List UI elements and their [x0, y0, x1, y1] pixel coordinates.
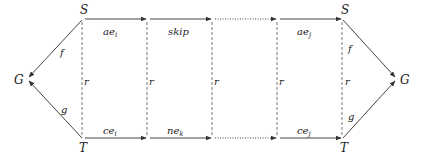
label-bottom-4: cej: [297, 125, 312, 138]
edge-right-g: [343, 81, 395, 138]
label-right-f: f: [347, 43, 354, 54]
label-top-1: aei: [103, 26, 117, 39]
node-right-s: S: [341, 3, 349, 17]
label-r-1: r: [84, 76, 90, 87]
label-top-2: skip: [168, 26, 189, 37]
node-left-s: S: [80, 3, 88, 17]
edge-left-f: [29, 20, 82, 77]
label-bottom-1: cei: [103, 125, 117, 138]
node-right-g: G: [400, 73, 410, 87]
node-left-g: G: [14, 73, 24, 87]
label-r-5: r: [345, 76, 351, 87]
label-left-f: f: [59, 47, 66, 58]
label-bottom-2: nek: [167, 125, 184, 138]
label-top-4: aej: [297, 26, 312, 39]
label-r-2: r: [149, 76, 155, 87]
edge-left-g: [29, 81, 82, 138]
label-r-4: r: [279, 76, 285, 87]
label-r-3: r: [214, 76, 220, 87]
node-left-t: T: [79, 141, 88, 155]
node-right-t: T: [340, 141, 349, 155]
label-right-g: g: [348, 111, 354, 122]
commutative-diagram: G S T S T G f g f g r r r r r aei skip a…: [0, 0, 424, 159]
label-left-g: g: [61, 104, 67, 115]
